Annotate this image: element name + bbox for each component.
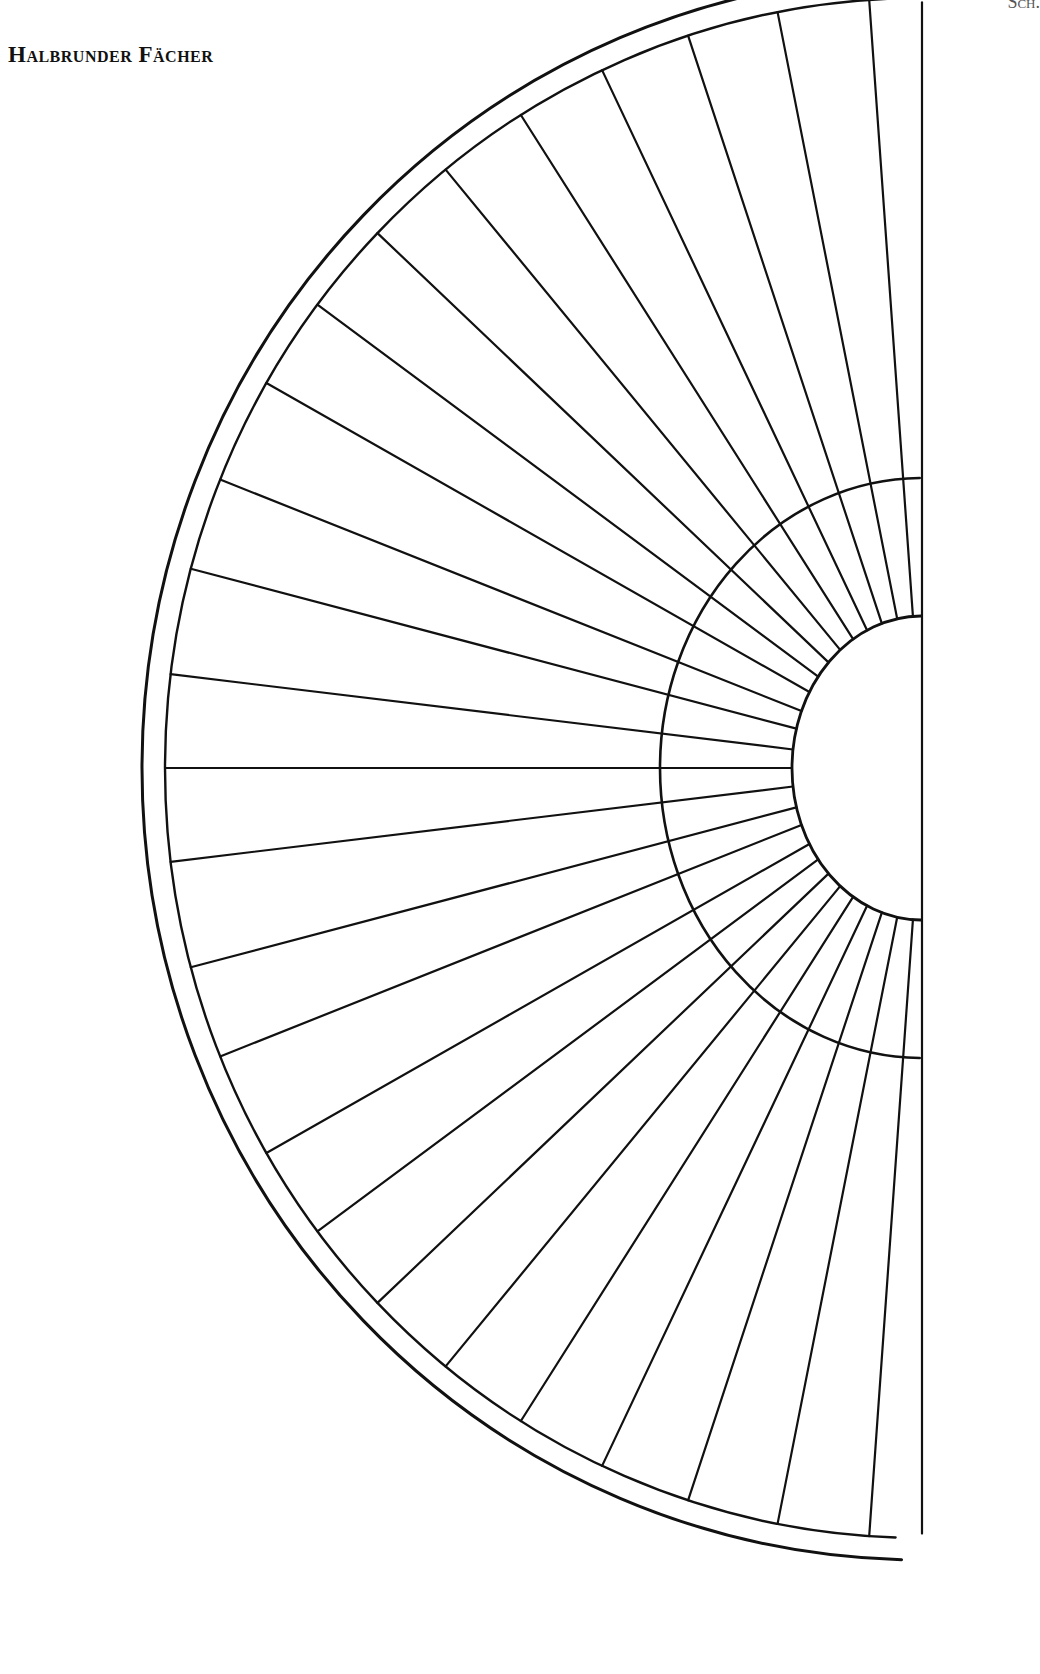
fan-drawing xyxy=(142,0,922,1560)
fan-spoke xyxy=(317,859,818,1231)
fan-spoke xyxy=(171,674,793,749)
fan-spoke xyxy=(266,844,809,1153)
fan-spoke xyxy=(521,897,853,1421)
fan-spoke xyxy=(869,920,913,1536)
fan-spoke xyxy=(521,115,853,639)
fan-spoke xyxy=(377,874,828,1303)
fan-spoke xyxy=(266,383,809,692)
fan-spoke xyxy=(377,233,828,662)
fan-spoke xyxy=(317,305,818,677)
fan-spoke xyxy=(778,12,898,619)
outer-border-arc xyxy=(142,0,902,1560)
fan-spoke xyxy=(220,825,801,1057)
fan-spoke xyxy=(446,886,841,1366)
fan-spoke xyxy=(778,917,898,1524)
hub-arc xyxy=(792,616,921,920)
fan-spoke xyxy=(869,0,913,616)
fan-spoke xyxy=(688,36,882,624)
fan-spoke xyxy=(171,787,793,862)
fan-spoke xyxy=(688,913,882,1501)
fan-spoke xyxy=(446,170,841,650)
fan-spoke xyxy=(220,480,801,712)
